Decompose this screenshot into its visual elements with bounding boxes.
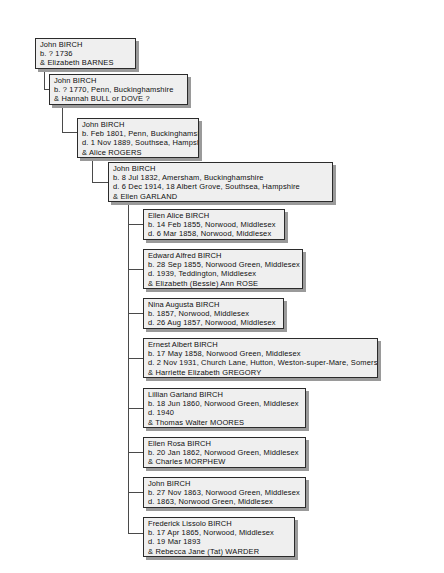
person-box-generation-4[interactable]: John BIRCH b. 8 Jul 1832, Amersham, Buck…	[108, 162, 333, 202]
connector-child-8	[128, 533, 144, 534]
person-box-child-5[interactable]: Lillian Garland BIRCH b. 18 Jun 1860, No…	[143, 388, 306, 428]
person-death: d. 19 Mar 1893	[148, 537, 291, 546]
person-death: d. 6 Mar 1858, Norwood, Middlesex	[148, 229, 281, 238]
person-death: d. 1 Nov 1889, Southsea, Hampshire	[82, 138, 195, 147]
person-box-child-7[interactable]: John BIRCH b. 27 Nov 1863, Norwood Green…	[143, 477, 306, 508]
connector-child-2	[128, 269, 144, 270]
connector-gen1-gen2-vertical	[44, 68, 45, 90]
person-birth: b. 17 May 1858, Norwood Green, Middlesex	[148, 349, 374, 358]
connector-gen3-gen4-vertical	[92, 158, 93, 183]
person-name: John BIRCH	[40, 40, 132, 49]
person-birth: b. 14 Feb 1855, Norwood, Middlesex	[148, 220, 281, 229]
person-name: Lillian Garland BIRCH	[148, 390, 302, 399]
person-birth: b. 8 Jul 1832, Amersham, Buckinghamshire	[113, 173, 329, 182]
person-birth: b. ? 1736	[40, 49, 132, 58]
person-death: d. 2 Nov 1931, Church Lane, Hutton, West…	[148, 358, 374, 367]
person-death: d. 6 Dec 1914, 18 Albert Grove, Southsea…	[113, 182, 329, 191]
person-box-child-6[interactable]: Ellen Rosa BIRCH b. 20 Jan 1862, Norwood…	[143, 437, 306, 468]
person-spouse: & Alice ROGERS	[82, 148, 195, 157]
person-spouse: & Hannah BULL or DOVE ?	[54, 94, 184, 103]
person-death: d. 1863, Norwood Green, Middlesex	[148, 497, 302, 506]
person-birth: b. 28 Sep 1855, Norwood Green, Middlesex	[148, 260, 299, 269]
connector-children-trunk	[128, 201, 129, 534]
person-name: John BIRCH	[113, 164, 329, 173]
person-box-generation-1[interactable]: John BIRCH b. ? 1736 & Elizabeth BARNES	[35, 38, 136, 69]
person-name: Ernest Albert BIRCH	[148, 340, 374, 349]
person-birth: b. 27 Nov 1863, Norwood Green, Middlesex	[148, 488, 302, 497]
connector-child-5	[128, 408, 144, 409]
person-name: John BIRCH	[148, 479, 302, 488]
person-death: d. 1940	[148, 408, 302, 417]
connector-gen3-gen4-horizontal	[92, 182, 109, 183]
person-name: John BIRCH	[54, 76, 184, 85]
person-box-child-4[interactable]: Ernest Albert BIRCH b. 17 May 1858, Norw…	[143, 338, 378, 378]
person-birth: b. 18 Jun 1860, Norwood Green, Middlesex	[148, 399, 302, 408]
person-spouse: & Elizabeth BARNES	[40, 58, 132, 67]
person-spouse: & Ellen GARLAND	[113, 192, 329, 201]
person-birth: b. 1857, Norwood, Middlesex	[148, 309, 280, 318]
person-box-child-2[interactable]: Edward Alfred BIRCH b. 28 Sep 1855, Norw…	[143, 249, 303, 289]
person-spouse: & Elizabeth (Bessie) Ann ROSE	[148, 279, 299, 288]
connector-child-3	[128, 313, 144, 314]
person-spouse: & Thomas Walter MOORES	[148, 418, 302, 427]
family-tree-chart: John BIRCH b. ? 1736 & Elizabeth BARNES …	[0, 0, 444, 573]
person-name: Edward Alfred BIRCH	[148, 251, 299, 260]
person-box-child-8[interactable]: Frederick Lissolo BIRCH b. 17 Apr 1865, …	[143, 517, 295, 557]
person-birth: b. 20 Jan 1862, Norwood Green, Middlesex	[148, 448, 302, 457]
person-death: d. 26 Aug 1857, Norwood, Middlesex	[148, 318, 280, 327]
person-birth: b. Feb 1801, Penn, Buckinghamshire	[82, 129, 195, 138]
person-name: Ellen Alice BIRCH	[148, 211, 281, 220]
connector-child-1	[128, 224, 144, 225]
connector-gen2-gen3-horizontal	[62, 132, 78, 133]
connector-child-7	[128, 492, 144, 493]
person-box-generation-3[interactable]: John BIRCH b. Feb 1801, Penn, Buckingham…	[77, 118, 199, 158]
person-name: John BIRCH	[82, 120, 195, 129]
person-name: Frederick Lissolo BIRCH	[148, 519, 291, 528]
person-name: Ellen Rosa BIRCH	[148, 439, 302, 448]
person-death: d. 1939, Teddington, Middlesex	[148, 269, 299, 278]
connector-child-6	[128, 452, 144, 453]
person-spouse: & Harriette Elizabeth GREGORY	[148, 368, 374, 377]
person-box-generation-2[interactable]: John BIRCH b. ? 1770, Penn, Buckinghamsh…	[49, 74, 188, 105]
person-box-child-1[interactable]: Ellen Alice BIRCH b. 14 Feb 1855, Norwoo…	[143, 209, 285, 240]
person-spouse: & Rebecca Jane (Tat) WARDER	[148, 547, 291, 556]
person-name: Nina Augusta BIRCH	[148, 300, 280, 309]
person-birth: b. 17 Apr 1865, Norwood, Middlesex	[148, 528, 291, 537]
connector-gen2-gen3-vertical	[62, 105, 63, 133]
person-birth: b. ? 1770, Penn, Buckinghamshire	[54, 85, 184, 94]
person-box-child-3[interactable]: Nina Augusta BIRCH b. 1857, Norwood, Mid…	[143, 298, 284, 329]
connector-child-4	[128, 358, 144, 359]
person-spouse: & Charles MORPHEW	[148, 457, 302, 466]
